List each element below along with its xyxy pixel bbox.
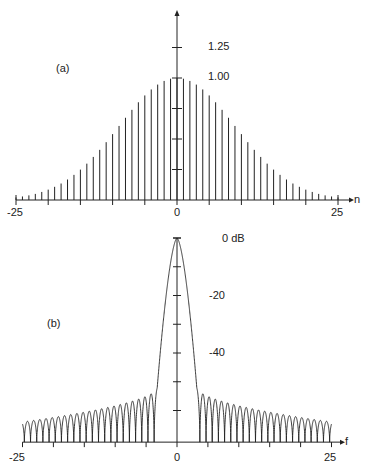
x-axis-name-f: f <box>345 436 348 447</box>
x-tick-label-zero: 0 <box>174 452 180 463</box>
y-tick-label-minus20: -20 <box>209 290 225 301</box>
x-tick-label-max: 25 <box>331 207 343 218</box>
x-tick-label-min: -25 <box>7 207 23 218</box>
x-axis-name-n: n <box>354 194 360 205</box>
panel-a-stem-plot <box>16 10 354 205</box>
panel-b-label: (b) <box>47 318 60 329</box>
panel-b-spectrum-plot <box>23 238 346 447</box>
panel-a-label: (a) <box>56 63 69 74</box>
x-tick-label-min: -25 <box>9 452 25 463</box>
y-tick-label-1.25: 1.25 <box>208 41 229 52</box>
y-tick-label-1.00: 1.00 <box>208 71 229 82</box>
y-tick-label-0db: 0 dB <box>222 233 245 244</box>
x-tick-label-zero: 0 <box>174 207 180 218</box>
y-tick-label-minus40: -40 <box>209 347 225 358</box>
x-tick-label-max: 25 <box>324 452 336 463</box>
figure <box>0 0 365 468</box>
y-axis-arrow-icon <box>175 10 180 16</box>
